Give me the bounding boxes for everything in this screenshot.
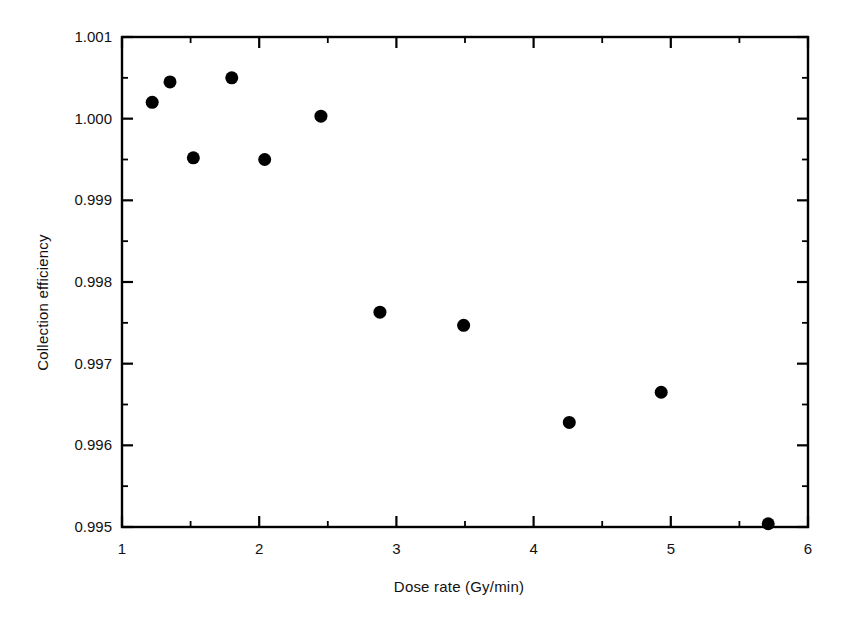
data-point (373, 306, 386, 319)
x-tick-label: 5 (651, 540, 691, 557)
data-point (146, 96, 159, 109)
y-tick-label: 0.999 (44, 191, 112, 208)
data-point (187, 151, 200, 164)
x-tick-label: 2 (239, 540, 279, 557)
data-point (225, 71, 238, 84)
x-tick-label: 4 (514, 540, 554, 557)
y-tick-label: 0.995 (44, 518, 112, 535)
data-point (457, 319, 470, 332)
data-point (655, 386, 668, 399)
data-point (762, 517, 775, 530)
y-tick-label: 1.001 (44, 28, 112, 45)
plot-background (122, 37, 808, 527)
data-point (164, 75, 177, 88)
y-tick-label: 0.996 (44, 436, 112, 453)
scatter-chart-figure: 0.9950.9960.9970.9980.9991.0001.001 1234… (0, 0, 854, 642)
data-point (563, 416, 576, 429)
x-tick-label: 6 (788, 540, 828, 557)
x-tick-label: 3 (376, 540, 416, 557)
y-tick-label: 0.998 (44, 273, 112, 290)
y-tick-label: 1.000 (44, 110, 112, 127)
x-tick-label: 1 (102, 540, 142, 557)
data-point (258, 153, 271, 166)
x-axis-title: Dose rate (Gy/min) (339, 578, 579, 595)
data-point (314, 110, 327, 123)
y-axis-title: Collection efficiency (34, 183, 51, 423)
y-tick-label: 0.997 (44, 355, 112, 372)
